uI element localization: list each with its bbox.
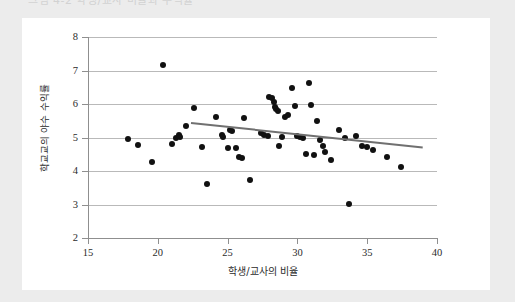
scatter-point — [125, 136, 131, 142]
y-tick-label-8: 8 — [56, 32, 78, 42]
gridline-y-7 — [88, 71, 437, 72]
x-tick-mark-30 — [297, 238, 298, 244]
scatter-point — [328, 157, 334, 163]
gridline-y-6 — [88, 104, 437, 105]
gridline-y-5 — [88, 138, 437, 139]
y-tick-label-7: 7 — [56, 66, 78, 76]
scatter-point — [183, 123, 189, 129]
scatter-point — [346, 201, 352, 207]
scatter-point — [289, 85, 295, 91]
y-tick-mark-7 — [82, 71, 89, 72]
scatter-point — [191, 105, 197, 111]
y-tick-label-3: 3 — [56, 200, 78, 210]
scatter-point — [292, 103, 298, 109]
scatter-point — [204, 181, 210, 187]
page-top-strip: 그림 4-2 학생/교사 비율과 수익률 — [0, 0, 515, 18]
x-axis-title: 학생/교사의 비율 — [88, 263, 438, 278]
y-tick-mark-3 — [82, 205, 89, 206]
figure-card: 학교교의 야수 수익률 학생/교사의 비율 2345678 1520253035… — [22, 18, 490, 290]
y-axis-title: 학교교의 야수 수익률 — [37, 73, 51, 183]
scatter-point — [311, 152, 317, 158]
scatter-point — [275, 108, 281, 114]
scatter-point — [303, 151, 309, 157]
x-tick-label-20: 20 — [143, 247, 173, 258]
scatter-point — [177, 134, 183, 140]
scatter-point — [398, 164, 404, 170]
scatter-point — [279, 134, 285, 140]
scatter-point — [308, 102, 314, 108]
y-tick-mark-2 — [82, 238, 89, 239]
y-tick-label-5: 5 — [56, 133, 78, 143]
scatter-point — [169, 141, 175, 147]
y-tick-label-4: 4 — [56, 166, 78, 176]
scatter-point — [225, 145, 231, 151]
scatter-point — [149, 159, 155, 165]
scatter-point — [160, 62, 166, 68]
scatter-chart: 학교교의 야수 수익률 학생/교사의 비율 2345678 1520253035… — [22, 18, 490, 290]
x-tick-label-25: 25 — [213, 247, 243, 258]
x-tick-mark-40 — [437, 238, 438, 244]
x-axis-line — [88, 238, 438, 239]
x-tick-label-15: 15 — [73, 247, 103, 258]
x-tick-mark-25 — [228, 238, 229, 244]
x-tick-mark-20 — [158, 238, 159, 244]
scatter-point — [265, 133, 271, 139]
scatter-point — [336, 127, 342, 133]
scatter-point — [229, 128, 235, 134]
gridline-y-4 — [88, 171, 437, 172]
x-tick-label-30: 30 — [282, 247, 312, 258]
scatter-point — [233, 145, 239, 151]
scatter-point — [276, 143, 282, 149]
plot-area — [88, 37, 437, 238]
gridline-y-8 — [88, 37, 437, 38]
scatter-point — [306, 80, 312, 86]
scatter-point — [199, 144, 205, 150]
y-tick-mark-5 — [82, 138, 89, 139]
scatter-point — [370, 147, 376, 153]
y-tick-mark-6 — [82, 104, 89, 105]
y-tick-mark-8 — [82, 37, 89, 38]
x-tick-label-35: 35 — [352, 247, 382, 258]
scatter-point — [320, 143, 326, 149]
y-tick-label-6: 6 — [56, 99, 78, 109]
y-tick-label-2: 2 — [56, 233, 78, 243]
scatter-point — [384, 154, 390, 160]
scatter-point — [322, 149, 328, 155]
x-tick-label-40: 40 — [422, 247, 452, 258]
scatter-point — [285, 112, 291, 118]
gridline-y-3 — [88, 205, 437, 206]
scatter-point — [213, 114, 219, 120]
scatter-point — [247, 177, 253, 183]
x-tick-mark-35 — [367, 238, 368, 244]
scatter-point — [353, 133, 359, 139]
cutoff-header-text: 그림 4-2 학생/교사 비율과 수익률 — [28, 0, 194, 7]
scatter-point — [239, 155, 245, 161]
scatter-point — [314, 118, 320, 124]
scatter-point — [241, 115, 247, 121]
scatter-point — [135, 142, 141, 148]
y-tick-mark-4 — [82, 171, 89, 172]
